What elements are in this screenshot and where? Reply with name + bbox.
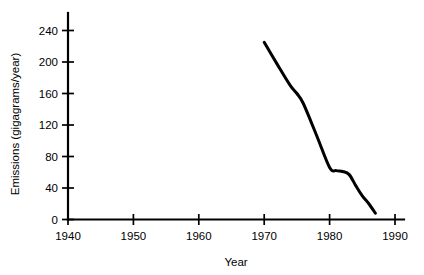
y-tick-label-80: 80: [45, 151, 58, 163]
x-tick-label-1960: 1960: [186, 230, 212, 242]
y-tick-label-200: 200: [39, 56, 58, 68]
x-tick-label-1990: 1990: [382, 230, 408, 242]
y-axis-tick-labels: 0 40 80 120 160 200 240: [39, 25, 58, 226]
y-tick-label-240: 240: [39, 25, 58, 37]
y-axis-title: Emissions (gigagrams/year): [9, 53, 21, 196]
y-tick-label-120: 120: [39, 119, 58, 131]
x-tick-label-1980: 1980: [317, 230, 343, 242]
chart-canvas: 0 40 80 120 160 200 240 1940 1950 1960 1…: [0, 0, 424, 275]
x-axis-title: Year: [224, 256, 247, 268]
y-tick-label-40: 40: [45, 182, 58, 194]
x-tick-label-1970: 1970: [251, 230, 277, 242]
x-tick-label-1950: 1950: [121, 230, 147, 242]
x-axis-tick-labels: 1940 1950 1960 1970 1980 1990: [55, 230, 408, 242]
x-tick-label-1940: 1940: [55, 230, 81, 242]
y-tick-label-0: 0: [52, 214, 58, 226]
emissions-line-chart: 0 40 80 120 160 200 240 1940 1950 1960 1…: [0, 0, 424, 275]
y-tick-label-160: 160: [39, 88, 58, 100]
emissions-data-line: [264, 42, 375, 213]
